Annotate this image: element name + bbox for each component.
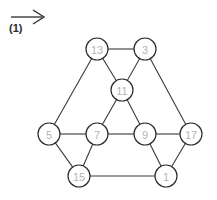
node-label: 9 [142, 129, 148, 141]
node-label: 3 [142, 44, 148, 56]
graph-node[interactable]: 7 [86, 123, 108, 145]
graph-node[interactable]: 3 [134, 38, 156, 60]
graph-node[interactable]: 13 [86, 38, 108, 60]
nodes-layer: 1331157917151 [38, 38, 202, 187]
node-label: 7 [94, 129, 100, 141]
node-label: 17 [185, 129, 197, 141]
graph-edge [127, 58, 140, 82]
graph-edge [149, 143, 161, 167]
graph-edge [55, 142, 73, 168]
graph-edge [102, 99, 117, 126]
node-label: 1 [163, 171, 169, 183]
graph-edge [171, 143, 186, 168]
edges-layer [54, 49, 186, 176]
node-label: 11 [116, 85, 127, 97]
graph-edge [102, 58, 117, 82]
node-label: 13 [91, 44, 103, 56]
graph-node[interactable]: 11 [111, 79, 133, 101]
graph-node[interactable]: 1 [155, 165, 177, 187]
graph-node[interactable]: 5 [38, 123, 60, 145]
graph-edge [127, 99, 141, 125]
node-label: 15 [73, 171, 85, 183]
node-label: 5 [46, 129, 52, 141]
graph-edge [83, 143, 93, 167]
graph-node[interactable]: 15 [68, 165, 90, 187]
graph-edge [150, 58, 186, 125]
graph-node[interactable]: 17 [180, 123, 202, 145]
graph-edge [54, 58, 92, 126]
graph-node[interactable]: 9 [134, 123, 156, 145]
graph-diagram: 1331157917151 [0, 0, 217, 200]
figure-canvas: (1) 1331157917151 [0, 0, 217, 200]
